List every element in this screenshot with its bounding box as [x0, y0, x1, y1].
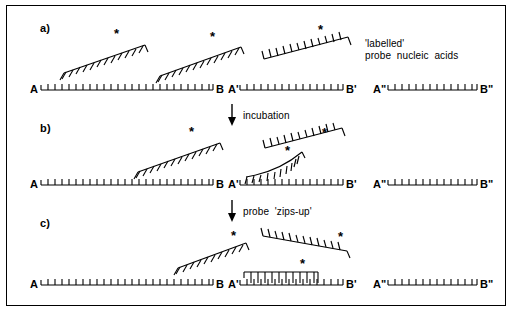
endlabel-bp-row-c: B'	[346, 278, 357, 291]
endlabel-app-row-a: A"	[373, 83, 386, 96]
step-label-zips-up: probe 'zips-up'	[243, 206, 312, 218]
label-marker-probe-a-3: *	[318, 22, 323, 37]
endlabel-bpp-row-b: B"	[480, 178, 493, 191]
label-marker-probe-c-1: *	[231, 228, 236, 243]
endlabel-b-row-c: B	[216, 278, 224, 291]
endlabel-a-row-c: A	[30, 278, 38, 291]
endlabel-bpp-row-c: B"	[480, 278, 493, 291]
label-marker-probe-c-2: *	[338, 229, 343, 244]
label-marker-probe-a-2: *	[210, 29, 215, 44]
label-marker-probe-a-1: *	[114, 26, 119, 41]
endlabel-bp-row-a: B'	[346, 83, 357, 96]
label-marker-probe-b-3: *	[285, 143, 290, 158]
endlabel-ap-row-a: A'	[228, 83, 239, 96]
endlabel-ap-row-c: A'	[228, 278, 239, 291]
caption-line-probe-nucleic-acids: probe nucleic acids	[365, 50, 458, 62]
label-marker-probe-b-1: *	[189, 124, 194, 139]
endlabel-bpp-row-a: B"	[480, 83, 493, 96]
panel-label-a: a)	[40, 22, 50, 35]
endlabel-bp-row-b: B'	[346, 178, 357, 191]
panel-label-c: c)	[40, 217, 50, 230]
endlabel-a-row-b: A	[30, 178, 38, 191]
endlabel-a-row-a: A	[30, 83, 38, 96]
endlabel-app-row-c: A"	[373, 278, 386, 291]
endlabel-b-row-b: B	[216, 178, 224, 191]
label-marker-probe-c-hybridized: *	[300, 256, 305, 271]
endlabel-ap-row-b: A'	[228, 178, 239, 191]
step-label-incubation: incubation	[243, 110, 290, 122]
figure-canvas: a) b) c) 'labelled' probe nucleic acids …	[0, 0, 514, 313]
panel-label-b: b)	[40, 122, 51, 135]
endlabel-app-row-b: A"	[373, 178, 386, 191]
endlabel-b-row-a: B	[216, 83, 224, 96]
caption-line-labelled: 'labelled'	[365, 38, 404, 50]
label-marker-probe-b-2: *	[322, 125, 327, 140]
